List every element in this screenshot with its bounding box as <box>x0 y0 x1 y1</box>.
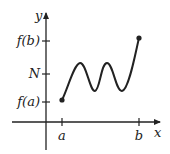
function-curve <box>62 38 139 100</box>
x-axis-label: x <box>154 125 162 140</box>
x-tick-label-a: a <box>58 128 66 143</box>
start-point-fa <box>59 97 64 102</box>
ivt-diagram: x y f(b) N f(a) a b <box>0 0 170 154</box>
y-tick-label-fb: f(b) <box>16 33 40 48</box>
y-axis-label: y <box>34 8 43 23</box>
y-tick-label-fa: f(a) <box>16 94 40 109</box>
x-tick-label-b: b <box>135 128 143 143</box>
y-tick-label-N: N <box>28 66 41 81</box>
end-point-fb <box>136 35 141 40</box>
